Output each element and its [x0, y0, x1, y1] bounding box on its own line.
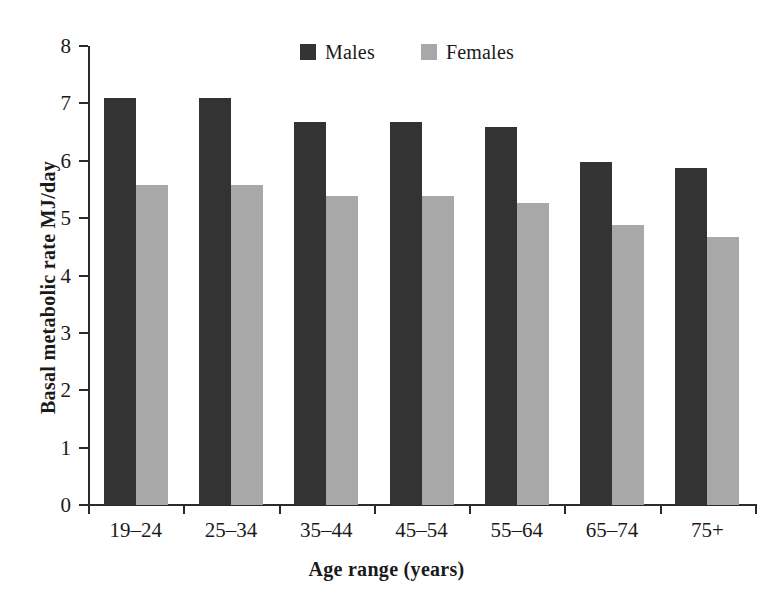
legend-swatch-males: [300, 44, 316, 60]
legend-entry-males: Males: [300, 42, 375, 62]
y-axis-tick: 6: [79, 160, 88, 162]
y-axis-tick-label: 8: [61, 34, 72, 59]
y-axis-tick-label: 2: [61, 378, 72, 403]
bar-males: [390, 122, 422, 505]
x-axis-tick: [88, 504, 90, 514]
x-axis-tick: [469, 504, 471, 514]
y-axis-tick: 7: [79, 102, 88, 104]
bar-males: [675, 168, 707, 505]
y-axis-tick: 5: [79, 217, 88, 219]
y-axis-tick: 4: [79, 275, 88, 277]
x-axis-tick: [279, 504, 281, 514]
x-axis-tick: [660, 504, 662, 514]
y-axis-tick-label: 3: [61, 320, 72, 345]
bar-males: [580, 162, 612, 505]
y-axis-tick: 0: [79, 504, 88, 506]
bar-females: [136, 185, 168, 505]
x-axis-label: 75+: [691, 518, 724, 543]
x-axis-tick: [183, 504, 185, 514]
legend-swatch-females: [421, 44, 437, 60]
y-axis-tick: 8: [79, 45, 88, 47]
x-axis-label: 25–34: [205, 518, 258, 543]
bar-females: [231, 185, 263, 505]
bars-layer: [88, 46, 755, 505]
bar-females: [517, 203, 549, 505]
x-axis-label: 55–64: [491, 518, 544, 543]
x-axis-label: 35–44: [300, 518, 353, 543]
y-axis-tick: 3: [79, 332, 88, 334]
y-axis-title: Basal metabolic rate MJ/day: [37, 8, 60, 568]
y-axis-tick-label: 6: [61, 148, 72, 173]
x-axis-tick: [374, 504, 376, 514]
x-axis-label: 45–54: [395, 518, 448, 543]
y-axis-tick-label: 1: [61, 435, 72, 460]
bar-females: [326, 196, 358, 505]
plot-area: 012345678: [88, 46, 755, 505]
bar-males: [485, 127, 517, 505]
y-axis-tick: 1: [79, 447, 88, 449]
x-axis-tick: [564, 504, 566, 514]
bar-females: [422, 196, 454, 505]
legend-label-males: Males: [325, 42, 375, 62]
bar-males: [104, 98, 136, 505]
y-axis-tick: 2: [79, 389, 88, 391]
bar-females: [612, 225, 644, 505]
y-axis-tick-label: 5: [61, 206, 72, 231]
x-axis-label: 65–74: [586, 518, 639, 543]
bar-males: [294, 122, 326, 505]
y-axis-tick-label: 4: [61, 263, 72, 288]
y-axis-tick-label: 0: [61, 493, 72, 518]
legend-label-females: Females: [446, 42, 514, 62]
y-axis-tick-label: 7: [61, 91, 72, 116]
legend-entry-females: Females: [421, 42, 514, 62]
x-axis-tick: [755, 504, 757, 514]
bar-chart: Males Females 012345678 19–2425–3435–444…: [0, 0, 773, 605]
x-axis-label: 19–24: [109, 518, 162, 543]
bar-males: [199, 98, 231, 505]
x-axis-title: Age range (years): [0, 558, 773, 581]
bar-females: [707, 237, 739, 506]
chart-legend: Males Females: [300, 42, 514, 62]
